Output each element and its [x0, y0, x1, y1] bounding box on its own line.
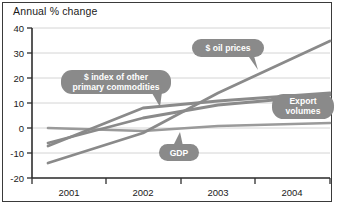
callout-primary-commodities: $ index of other primary commodities [61, 70, 171, 107]
y-tick-labels: 40 30 20 10 0 -10 -20 [10, 23, 24, 184]
y-label-neg20: -20 [10, 173, 24, 184]
y-axis [27, 28, 32, 178]
y-label-neg10: -10 [10, 148, 24, 159]
y-label-30: 30 [13, 48, 24, 59]
x-axis [32, 178, 330, 184]
y-label-20: 20 [13, 73, 24, 84]
callout-export-volumes-line2: volumes [286, 106, 321, 116]
x-label-2002: 2002 [132, 187, 153, 198]
x-label-2003: 2003 [207, 187, 228, 198]
callout-gdp-tail [173, 132, 183, 146]
x-label-2004: 2004 [281, 187, 302, 198]
callout-primary-commodities-tail [152, 92, 162, 107]
y-label-10: 10 [13, 98, 24, 109]
x-tick-labels: 2001 2002 2003 2004 [58, 187, 302, 198]
callout-primary-commodities-line1: $ index of other [84, 72, 149, 82]
callout-oil-prices: $ oil prices [192, 39, 264, 70]
chart-plot-area: 40 30 20 10 0 -10 -20 2001 2002 2003 200… [0, 0, 342, 208]
callout-primary-commodities-line2: primary commodities [73, 82, 160, 92]
callout-gdp: GDP [159, 132, 199, 161]
callout-export-volumes: Export volumes [268, 94, 334, 119]
x-label-2001: 2001 [58, 187, 79, 198]
y-label-0: 0 [19, 123, 24, 134]
chart-figure: Annual % change 40 30 20 [0, 0, 342, 208]
y-label-40: 40 [13, 23, 24, 34]
callout-oil-prices-tail [249, 56, 258, 70]
callout-oil-prices-label: $ oil prices [206, 43, 251, 53]
callout-gdp-label: GDP [170, 148, 189, 158]
callout-export-volumes-line1: Export [289, 96, 316, 106]
